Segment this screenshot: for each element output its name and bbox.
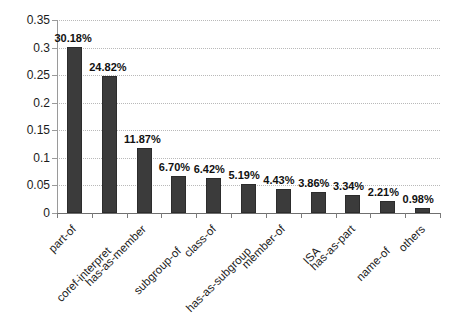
x-tick-mark-1 bbox=[92, 213, 93, 218]
bar-part-of bbox=[67, 47, 82, 213]
bar-has-as-subgroup bbox=[241, 184, 256, 213]
bar-value-label-coref-interpret: 24.82% bbox=[89, 62, 126, 73]
bar-value-label-has-as-part: 3.34% bbox=[333, 181, 364, 192]
gridline-0.3 bbox=[57, 48, 440, 49]
bar-value-label-subgroup-of: 6.70% bbox=[159, 162, 190, 173]
bar-value-label-has-as-member: 11.87% bbox=[124, 134, 161, 145]
bar-has-as-member bbox=[137, 148, 152, 213]
bar-member-of bbox=[276, 189, 291, 213]
gridline-0.35 bbox=[57, 20, 440, 21]
bar-has-as-part bbox=[345, 195, 360, 213]
bar-value-label-others: 0.98% bbox=[403, 194, 434, 205]
x-tick-mark-6 bbox=[266, 213, 267, 218]
bar-others bbox=[415, 208, 430, 213]
x-tick-mark-9 bbox=[370, 213, 371, 218]
y-axis-line bbox=[57, 20, 58, 213]
bar-value-label-part-of: 30.18% bbox=[54, 33, 91, 44]
y-tick-label-0.1: 0.1 bbox=[4, 152, 50, 164]
x-tick-mark-3 bbox=[161, 213, 162, 218]
y-tick-label-0.25: 0.25 bbox=[4, 69, 50, 81]
x-tick-mark-4 bbox=[196, 213, 197, 218]
bar-name-of bbox=[380, 201, 395, 213]
bar-ISA bbox=[311, 192, 326, 213]
y-tick-label-0.3: 0.3 bbox=[4, 42, 50, 54]
x-tick-mark-2 bbox=[127, 213, 128, 218]
y-tick-label-0: 0 bbox=[4, 207, 50, 219]
y-tick-label-0.05: 0.05 bbox=[4, 179, 50, 191]
bar-value-label-member-of: 4.43% bbox=[263, 175, 294, 186]
y-tick-label-0.15: 0.15 bbox=[4, 124, 50, 136]
x-tick-mark-8 bbox=[336, 213, 337, 218]
bar-class-of bbox=[206, 178, 221, 213]
bar-subgroup-of bbox=[171, 176, 186, 213]
y-tick-label-0.35: 0.35 bbox=[4, 14, 50, 26]
bar-coref-interpret bbox=[102, 76, 117, 213]
y-tick-label-0.2: 0.2 bbox=[4, 97, 50, 109]
x-tick-mark-5 bbox=[231, 213, 232, 218]
bar-value-label-has-as-subgroup: 5.19% bbox=[229, 170, 260, 181]
bar-value-label-name-of: 2.21% bbox=[368, 187, 399, 198]
x-axis-line bbox=[57, 213, 440, 214]
bar-value-label-class-of: 6.42% bbox=[194, 164, 225, 175]
x-tick-mark-0 bbox=[57, 213, 58, 218]
x-tick-mark-10 bbox=[405, 213, 406, 218]
x-tick-mark-end bbox=[440, 213, 441, 218]
x-tick-mark-7 bbox=[301, 213, 302, 218]
bar-value-label-ISA: 3.86% bbox=[298, 178, 329, 189]
